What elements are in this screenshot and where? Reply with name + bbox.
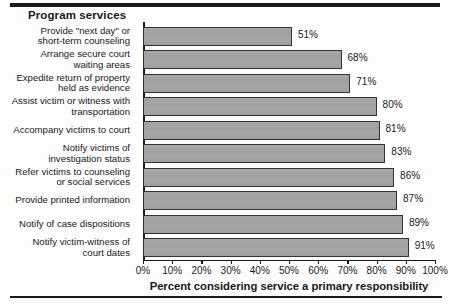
top-rule [10, 3, 440, 7]
x-tick-label: 10% [162, 265, 182, 276]
x-tick-label: 50% [279, 265, 299, 276]
x-tick-label: 20% [191, 265, 211, 276]
bar-row: Notify victim-witness of court dates91% [143, 237, 435, 261]
category-label: Accompany victims to court [0, 125, 130, 136]
bar-value-label: 68% [348, 52, 368, 63]
category-label: Refer victims to counseling or social se… [0, 167, 130, 188]
column-header-program-services: Program services [28, 9, 126, 21]
bar-value-label: 80% [383, 99, 403, 110]
x-axis-title: Percent considering service a primary re… [143, 280, 435, 292]
bar-row: Expedite return of property held as evid… [143, 72, 435, 96]
bar-value-label: 83% [391, 146, 411, 157]
x-tick-label: 0% [136, 265, 150, 276]
bar [143, 74, 350, 93]
bar-value-label: 51% [298, 29, 318, 40]
bar-value-label: 87% [403, 193, 423, 204]
bar-row: Notify of case dispositions89% [143, 213, 435, 237]
bottom-rule [10, 296, 442, 298]
x-tick-mark [260, 260, 261, 264]
plot-area: Provide "next day" or short-term counsel… [143, 25, 435, 260]
x-tick-mark [347, 260, 348, 264]
x-tick-mark [172, 260, 173, 264]
bar [143, 215, 403, 234]
bar [143, 168, 394, 187]
bar-value-label: 86% [400, 170, 420, 181]
x-tick-mark [231, 260, 232, 264]
x-tick-label: 90% [396, 265, 416, 276]
x-tick-label: 40% [250, 265, 270, 276]
bar-row: Accompany victims to court81% [143, 119, 435, 143]
x-tick-label: 30% [221, 265, 241, 276]
bar [143, 238, 409, 257]
category-label: Arrange secure court waiting areas [0, 49, 130, 70]
bar [143, 50, 342, 69]
x-tick-mark [143, 260, 144, 264]
x-tick-mark [201, 260, 202, 264]
x-tick-label: 80% [367, 265, 387, 276]
category-label: Notify victims of investigation status [0, 143, 130, 164]
x-tick-mark [289, 260, 290, 264]
x-tick-mark [318, 260, 319, 264]
category-label: Provide printed information [0, 195, 130, 206]
category-label: Provide "next day" or short-term counsel… [0, 26, 130, 47]
x-tick-label: 100% [422, 265, 448, 276]
bar-value-label: 71% [356, 76, 376, 87]
category-label: Assist victim or witness with transporta… [0, 96, 130, 117]
bar [143, 191, 397, 210]
x-tick-mark [406, 260, 407, 264]
x-tick-mark [435, 260, 436, 264]
bar [143, 144, 385, 163]
category-label: Notify of case dispositions [0, 219, 130, 230]
bar-row: Provide printed information87% [143, 190, 435, 214]
bar [143, 27, 292, 46]
bar-row: Provide "next day" or short-term counsel… [143, 25, 435, 49]
bar-chart-figure: Program services Provide "next day" or s… [0, 0, 452, 307]
bar [143, 121, 380, 140]
bar [143, 97, 377, 116]
bar-row: Notify victims of investigation status83… [143, 143, 435, 167]
x-tick-label: 70% [337, 265, 357, 276]
x-tick-label: 60% [308, 265, 328, 276]
x-tick-mark [377, 260, 378, 264]
bar-row: Arrange secure court waiting areas68% [143, 49, 435, 73]
bar-value-label: 91% [415, 240, 435, 251]
category-label: Notify victim-witness of court dates [0, 237, 130, 258]
bar-row: Assist victim or witness with transporta… [143, 96, 435, 120]
bar-row: Refer victims to counseling or social se… [143, 166, 435, 190]
bar-value-label: 89% [409, 217, 429, 228]
bar-value-label: 81% [386, 123, 406, 134]
category-label: Expedite return of property held as evid… [0, 73, 130, 94]
